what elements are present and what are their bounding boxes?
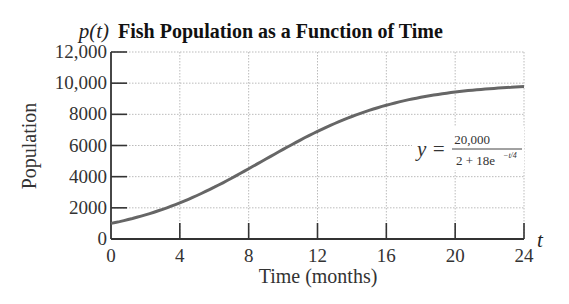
formula-exponent: −t/4 xyxy=(503,151,517,160)
function-label: p(t) xyxy=(77,19,109,43)
y-tick-label: 2000 xyxy=(69,197,107,218)
x-tick-label: 24 xyxy=(515,245,535,266)
y-tick-label: 8000 xyxy=(69,103,107,124)
x-variable-label: t xyxy=(537,228,544,252)
x-tick-label: 20 xyxy=(446,245,465,266)
y-tick-label: 4000 xyxy=(69,166,107,187)
x-axis-label: Time (months) xyxy=(259,265,378,288)
formula-lhs: y = xyxy=(415,137,446,161)
chart-title: Fish Population as a Function of Time xyxy=(118,20,443,43)
formula-denominator: 2 + 18e xyxy=(456,153,495,168)
y-tick-label: 6000 xyxy=(69,135,107,156)
formula-annotation: y = 20,000 2 + 18e −t/4 xyxy=(412,126,524,170)
y-axis-label: Population xyxy=(18,103,41,190)
x-tick-label: 4 xyxy=(175,245,185,266)
x-tick-label: 8 xyxy=(244,245,254,266)
x-tick-label: 12 xyxy=(308,245,327,266)
y-tick-label: 12,000 xyxy=(55,41,107,62)
x-tick-label: 0 xyxy=(106,245,116,266)
x-tick-label: 16 xyxy=(377,245,396,266)
y-tick-label: 10,000 xyxy=(55,72,107,93)
formula-numerator: 20,000 xyxy=(454,132,490,147)
chart: 0200040006000800010,00012,00004812162024… xyxy=(0,0,569,304)
